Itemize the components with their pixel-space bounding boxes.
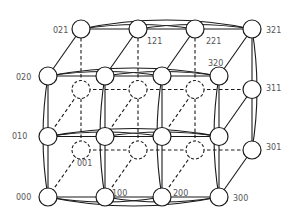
node-001 [72, 141, 90, 159]
node-020 [39, 67, 57, 85]
node-labels: 0000100200011002003000211212213213203113… [12, 26, 281, 203]
node-label-021: 021 [53, 26, 68, 35]
node-label-301: 301 [266, 143, 281, 152]
node-120 [96, 67, 114, 85]
node-210 [153, 128, 171, 146]
node-010 [39, 128, 57, 146]
x-wrap-edge [48, 68, 219, 76]
node-021 [72, 20, 90, 38]
node-211 [186, 81, 204, 99]
node-300 [210, 188, 228, 206]
x-wrap-edge [48, 197, 219, 206]
node-121 [129, 20, 147, 38]
node-220 [153, 67, 171, 85]
nodes [39, 20, 261, 206]
node-label-100: 100 [112, 189, 127, 198]
node-label-300: 300 [233, 194, 248, 203]
node-label-321: 321 [266, 26, 281, 35]
node-311 [243, 81, 261, 99]
node-label-010: 010 [12, 132, 27, 141]
torus-network-diagram: 0000100200011002003000211212213213203113… [0, 0, 290, 222]
node-label-001: 001 [77, 159, 92, 168]
node-110 [96, 128, 114, 146]
node-label-320: 320 [208, 59, 223, 68]
node-221 [186, 20, 204, 38]
node-101 [129, 141, 147, 159]
node-label-200: 200 [173, 189, 188, 198]
x-wrap-edge [48, 129, 219, 137]
visible-edges [43, 20, 257, 206]
node-000 [39, 188, 57, 206]
node-320 [210, 67, 228, 85]
node-label-000: 000 [16, 193, 31, 202]
hidden-edges [48, 29, 252, 197]
node-011 [72, 81, 90, 99]
node-301 [243, 141, 261, 159]
node-label-121: 121 [147, 37, 162, 46]
node-201 [186, 141, 204, 159]
node-label-311: 311 [266, 84, 281, 93]
x-wrap-edge [81, 20, 252, 29]
node-200 [153, 188, 171, 206]
node-label-221: 221 [206, 37, 221, 46]
node-label-020: 020 [16, 73, 31, 82]
node-310 [210, 128, 228, 146]
node-111 [129, 81, 147, 99]
node-321 [243, 20, 261, 38]
